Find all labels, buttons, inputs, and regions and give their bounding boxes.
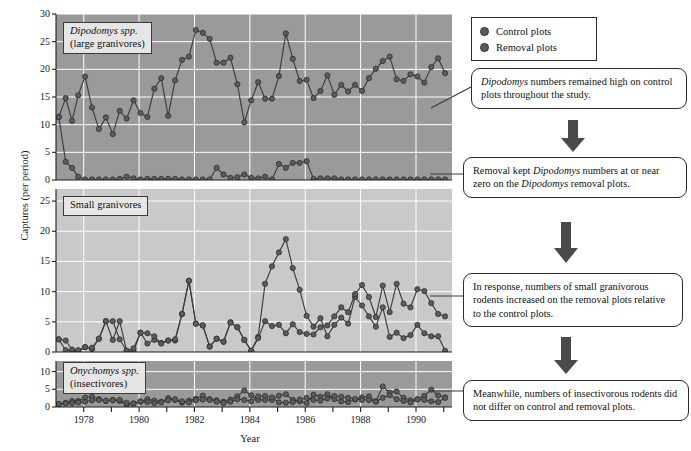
y-tick-label: 25 [24, 36, 50, 47]
y-tick-label: 5 [24, 383, 50, 394]
x-tick-label: 1990 [396, 414, 436, 425]
removal-plots-marker-icon [480, 43, 489, 52]
y-tick-label: 30 [24, 8, 50, 19]
y-tick-label: 15 [24, 255, 50, 266]
callout-small-granivores-text: In response, numbers of small granivorou… [473, 281, 665, 319]
flow-arrow-1 [560, 120, 586, 153]
y-tick-label: 25 [24, 195, 50, 206]
y-tick-label: 0 [24, 401, 50, 412]
panel-label-dipodomys-line1: Dipodomys spp. [70, 25, 138, 36]
x-tick-label: 1980 [119, 414, 159, 425]
y-tick-label: 20 [24, 63, 50, 74]
callout-dipodomys-control: Dipodomys numbers remained high on contr… [471, 68, 687, 109]
legend-item-control: Control plots [480, 23, 588, 39]
legend-label-control: Control plots [496, 26, 551, 37]
callout-insectivores: Meanwhile, numbers of insectivorous rode… [463, 380, 689, 421]
control-plots-marker-icon [480, 27, 489, 36]
y-tick-label: 5 [24, 146, 50, 157]
y-tick-label: 10 [24, 286, 50, 297]
y-tick-label: 20 [24, 225, 50, 236]
x-axis-title: Year [190, 433, 310, 444]
x-tick-label: 1988 [341, 414, 381, 425]
callout-small-granivores: In response, numbers of small granivorou… [463, 273, 683, 327]
flow-arrow-3 [553, 337, 579, 375]
panel-label-dipodomys-line2: (large granivores) [70, 38, 145, 51]
callout-dipodomys-removal: Removal kept Dipodomys numbers at or nea… [463, 157, 687, 198]
panel-label-onychomys-line2: (insectivores) [70, 378, 139, 391]
panel-label-dipodomys: Dipodomys spp. (large granivores) [63, 22, 152, 54]
y-tick-label: 10 [24, 119, 50, 130]
flow-arrow-2 [553, 222, 579, 264]
legend-item-removal: Removal plots [480, 39, 588, 55]
y-tick-label: 5 [24, 316, 50, 327]
panel-label-small-granivores: Small granivores [63, 196, 148, 216]
panel-label-onychomys: Onychomys spp. (insectivores) [63, 362, 146, 394]
x-tick-label: 1982 [174, 414, 214, 425]
y-tick-label: 0 [24, 174, 50, 185]
panel-label-small-granivores-line1: Small granivores [70, 199, 141, 212]
callout-insectivores-text: Meanwhile, numbers of insectivorous rode… [473, 388, 677, 412]
y-tick-label: 0 [24, 346, 50, 357]
x-tick-label: 1978 [64, 414, 104, 425]
y-tick-label: 15 [24, 91, 50, 102]
x-tick-label: 1986 [285, 414, 325, 425]
legend: Control plots Removal plots [471, 17, 597, 61]
x-tick-label: 1984 [230, 414, 270, 425]
legend-label-removal: Removal plots [496, 42, 557, 53]
y-tick-label: 10 [24, 366, 50, 377]
panel-label-onychomys-line1: Onychomys spp. [70, 365, 139, 376]
